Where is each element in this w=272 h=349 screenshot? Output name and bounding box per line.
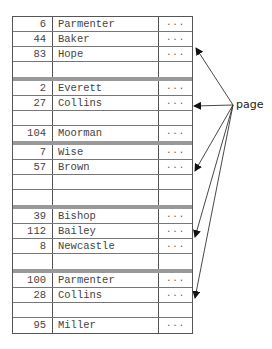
arrow-icon	[194, 105, 233, 106]
arrow-icon	[195, 105, 233, 171]
arrow-icon	[195, 105, 233, 237]
page-label: page	[236, 98, 263, 111]
arrow-icon	[196, 48, 233, 105]
arrow-icon	[195, 105, 233, 298]
pointer-arrows	[0, 0, 272, 349]
